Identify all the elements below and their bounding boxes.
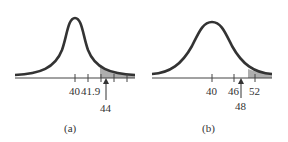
figure: 40 41.9 44 (a) 40 46 52 48 (b) [0, 0, 288, 142]
bell-curve-b [152, 22, 272, 74]
panel-b: 40 46 52 48 (b) [152, 22, 272, 135]
arrow-label-44: 44 [100, 102, 112, 114]
tick-label-40-b: 40 [206, 85, 218, 97]
bell-curve-figure: 40 41.9 44 (a) 40 46 52 48 (b) [0, 0, 288, 142]
panel-label-a: (a) [64, 122, 77, 135]
tick-label-52-b: 52 [249, 85, 260, 97]
arrow-label-48: 48 [235, 100, 247, 112]
arrow-head-b [238, 78, 244, 84]
panel-a: 40 41.9 44 (a) [15, 18, 135, 135]
tick-label-41.9-a: 41.9 [81, 85, 101, 97]
panel-label-b: (b) [202, 122, 215, 135]
bell-curve-a [15, 18, 135, 75]
tick-label-46-b: 46 [228, 85, 240, 97]
tick-label-40-a: 40 [69, 85, 81, 97]
arrow-head-a [103, 78, 109, 84]
